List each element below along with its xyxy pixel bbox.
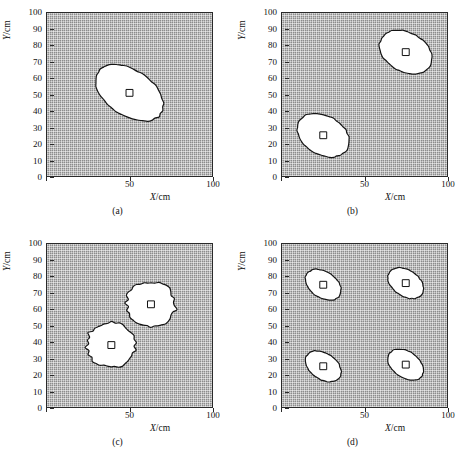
x-axis-label-a: X/cm [150,192,170,202]
y-tick-mark [285,62,289,63]
x-axis-label-unit-a: /cm [156,192,170,202]
region-blob [305,351,341,382]
y-tick-mark [285,144,289,145]
region-blob [96,64,164,121]
x-axis-label-unit-b: /cm [391,192,405,202]
y-tick-label: 60 [33,74,42,83]
y-tick-mark [285,392,289,393]
y-tick-label: 20 [268,140,277,149]
y-tick-mark [50,161,54,162]
y-tick-mark [285,111,289,112]
panel-a: 0102030405060708090100 50100 Y/cm X/cm (… [0,0,235,231]
y-tick-label: 10 [33,387,42,396]
regions-svg-a [47,13,212,176]
y-axis-label-c: Y/cm [2,251,12,271]
y-axis-label-symbol-d: Y [237,266,247,271]
x-tick-label: 50 [360,180,369,189]
x-axis-ticks-c: 50100 [46,408,213,424]
plot-frame-b [281,12,448,177]
y-tick-label: 90 [33,24,42,33]
y-axis-label-unit-a: /cm [2,20,12,34]
y-tick-label: 60 [33,305,42,314]
region-blob [388,349,424,380]
y-tick-mark [50,111,54,112]
y-tick-label: 80 [33,41,42,50]
y-tick-mark [50,309,54,310]
y-axis-ticks-d: 0102030405060708090100 [243,243,277,408]
panel-b: 0102030405060708090100 50100 Y/cm X/cm (… [235,0,470,231]
plot-frame-d [281,243,448,408]
y-axis-label-unit-d: /cm [237,251,247,265]
x-tick-label: 100 [206,411,220,420]
y-tick-label: 20 [33,140,42,149]
y-tick-mark [50,78,54,79]
x-tick-label: 50 [125,411,134,420]
y-tick-label: 100 [264,239,278,248]
x-axis-ticks-b: 50100 [281,177,448,193]
x-tick-mark [365,177,366,181]
y-tick-label: 50 [268,321,277,330]
y-tick-mark [285,45,289,46]
y-axis-ticks-a: 0102030405060708090100 [8,12,42,177]
y-tick-label: 10 [33,156,42,165]
y-axis-label-symbol-a: Y [2,35,12,40]
y-tick-mark [50,326,54,327]
region-blob [305,269,341,300]
x-axis-ticks-a: 50100 [46,177,213,193]
y-axis-label-symbol-c: Y [2,266,12,271]
y-tick-label: 100 [29,8,43,17]
plot-frame-c [46,243,213,408]
y-tick-label: 50 [33,90,42,99]
y-tick-mark [285,243,289,244]
panel-caption-c: (c) [0,437,235,447]
x-axis-label-c: X/cm [150,423,170,433]
y-tick-mark [50,293,54,294]
y-axis-label-b: Y/cm [237,20,247,40]
y-tick-mark [285,342,289,343]
y-tick-label: 80 [33,272,42,281]
y-tick-mark [285,359,289,360]
y-tick-mark [50,359,54,360]
panel-caption-d: (d) [235,437,470,447]
y-tick-label: 70 [33,288,42,297]
y-tick-label: 10 [268,387,277,396]
y-tick-label: 70 [268,57,277,66]
x-axis-label-unit-d: /cm [391,423,405,433]
y-tick-mark [50,62,54,63]
x-tick-mark [281,408,282,412]
y-axis-ticks-c: 0102030405060708090100 [8,243,42,408]
y-tick-label: 90 [268,255,277,264]
y-tick-mark [50,144,54,145]
y-tick-mark [285,128,289,129]
y-tick-mark [50,375,54,376]
y-tick-mark [285,293,289,294]
y-tick-mark [50,342,54,343]
y-tick-label: 80 [268,272,277,281]
y-tick-mark [50,29,54,30]
y-tick-label: 90 [268,24,277,33]
x-axis-label-b: X/cm [385,192,405,202]
y-tick-label: 0 [38,173,43,182]
y-tick-label: 40 [268,338,277,347]
y-tick-label: 0 [273,173,278,182]
panel-caption-b: (b) [235,206,470,216]
y-tick-label: 70 [268,288,277,297]
x-tick-label: 50 [125,180,134,189]
y-tick-label: 100 [29,239,43,248]
panel-d: 0102030405060708090100 50100 Y/cm X/cm (… [235,231,470,462]
y-tick-mark [285,309,289,310]
region-blob [388,267,424,298]
region-blob [85,321,136,367]
regions-svg-d [282,244,447,407]
y-tick-label: 30 [33,354,42,363]
y-tick-label: 90 [33,255,42,264]
y-tick-mark [285,78,289,79]
plot-area-d: 0102030405060708090100 50100 Y/cm X/cm [235,231,470,462]
y-tick-label: 60 [268,74,277,83]
y-tick-mark [50,260,54,261]
y-tick-mark [285,276,289,277]
x-tick-mark [213,177,214,181]
y-tick-mark [50,128,54,129]
x-tick-label: 50 [360,411,369,420]
y-tick-label: 30 [268,354,277,363]
